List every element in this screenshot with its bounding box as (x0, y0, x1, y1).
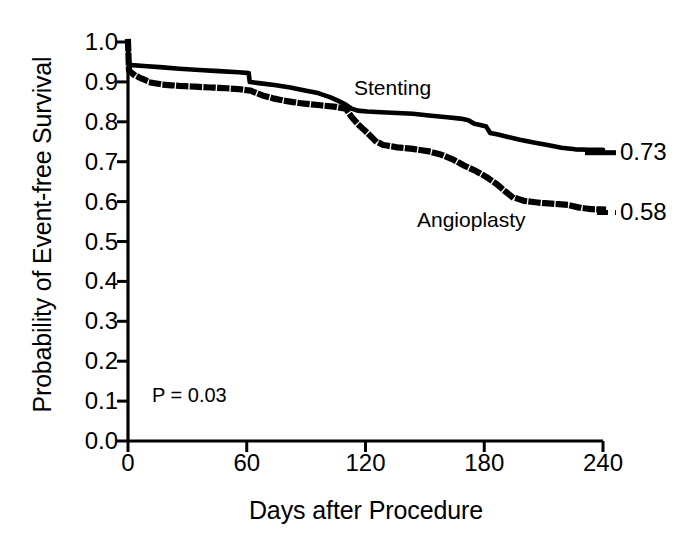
x-axis-tick-label: 0 (88, 450, 168, 476)
figure-root: Probability of Event-free Survival 0.00.… (0, 0, 685, 552)
x-axis-tick-label: 120 (326, 450, 406, 476)
x-axis-tick-label: 240 (563, 450, 643, 476)
series-label-angioplasty: Angioplasty (417, 210, 526, 230)
end-value-stenting: 0.73 (620, 139, 667, 165)
y-axis-ticks (117, 42, 128, 441)
data-series-layer (128, 42, 603, 210)
x-axis-tick-label: 180 (444, 450, 524, 476)
end-value-angioplasty: 0.58 (620, 199, 667, 225)
end-label-connector-stubs (585, 153, 616, 213)
series-line-angioplasty (128, 42, 603, 210)
axis-lines (128, 42, 603, 441)
x-axis-title: Days after Procedure (128, 496, 604, 525)
annotation-p-value: P = 0.03 (152, 385, 227, 405)
x-axis-tick-label: 60 (207, 450, 287, 476)
series-label-stenting: Stenting (354, 78, 431, 98)
